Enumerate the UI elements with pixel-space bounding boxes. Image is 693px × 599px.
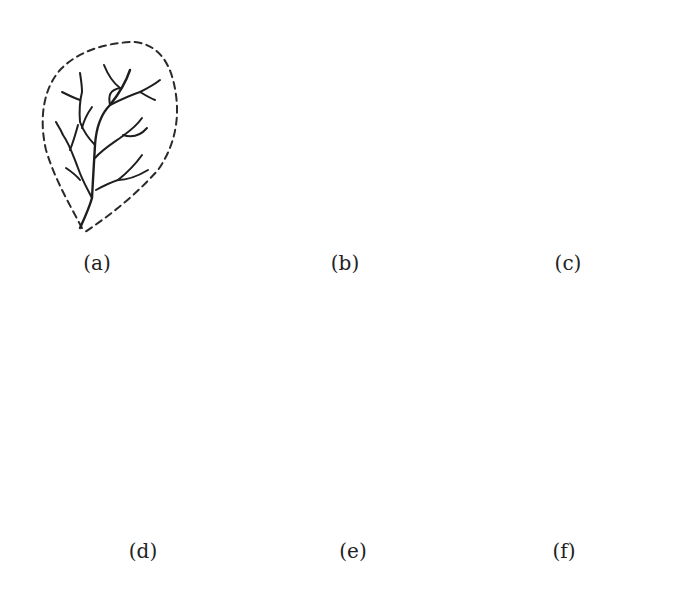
panel-label-f: (f): [552, 539, 575, 563]
panel-label-e: (e): [339, 539, 366, 563]
panel-label-c: (c): [555, 251, 582, 275]
panel-label-a: (a): [83, 251, 111, 275]
panel-a-diagram: [43, 42, 177, 232]
drainage-patterns-figure: [0, 0, 693, 599]
panel-a-boundary: [43, 42, 177, 232]
panel-label-b: (b): [331, 251, 359, 275]
panel-a-streams: [56, 65, 160, 228]
panel-label-d: (d): [129, 539, 157, 563]
